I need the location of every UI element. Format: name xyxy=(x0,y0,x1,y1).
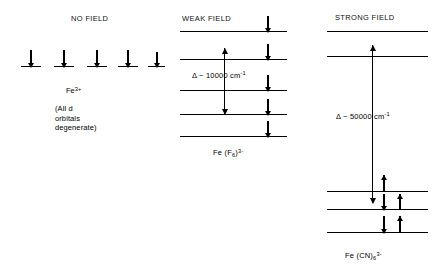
weak-field-delta-label: Δ ~ 10000 cm-1 xyxy=(192,70,246,80)
weak-field-species-charge: 3- xyxy=(238,148,243,154)
strong-field-electron-t2g1-up xyxy=(399,194,401,210)
weak-field-electron-1 xyxy=(267,44,269,60)
strong-field-t2g-level-2 xyxy=(327,232,428,233)
no-field-electron-0 xyxy=(30,50,32,67)
no-field-ion-label: Fe3+ xyxy=(66,86,81,95)
strong-field-species-prefix: Fe (CN) xyxy=(345,251,373,260)
weak-field-level-2 xyxy=(180,90,287,91)
no-field-ion-base: Fe xyxy=(66,86,75,95)
weak-field-delta-exponent: -1 xyxy=(240,70,245,76)
no-field-electron-1 xyxy=(63,50,65,67)
weak-field-level-0 xyxy=(180,31,287,32)
strong-field-species-label: Fe (CN)63- xyxy=(345,251,382,261)
strong-field-title: STRONG FIELD xyxy=(335,13,395,22)
no-field-note: (All d orbitals degenerate) xyxy=(55,104,97,133)
strong-field-electron-t2g0-up xyxy=(383,175,385,192)
no-field-title: NO FIELD xyxy=(71,14,108,23)
no-field-electron-3 xyxy=(127,50,129,67)
strong-field-electron-t2g2-down xyxy=(383,216,385,233)
no-field-electron-4 xyxy=(156,52,158,67)
weak-field-title: WEAK FIELD xyxy=(182,14,231,23)
strong-field-delta-arrow xyxy=(372,45,373,203)
weak-field-electron-2 xyxy=(267,75,269,91)
strong-field-t2g-level-0 xyxy=(327,191,428,192)
weak-field-level-4 xyxy=(180,136,287,137)
strong-field-eg-level-0 xyxy=(327,31,428,32)
weak-field-electron-4 xyxy=(267,121,269,137)
weak-field-electron-0 xyxy=(267,16,269,32)
strong-field-electron-t2g1-down xyxy=(383,194,385,210)
weak-field-level-1 xyxy=(180,59,287,60)
strong-field-t2g-level-1 xyxy=(327,209,428,210)
strong-field-delta-label: Δ ~ 50000 cm-1 xyxy=(336,111,390,121)
no-field-electron-2 xyxy=(96,50,98,67)
strong-field-species-charge: 3- xyxy=(376,251,381,257)
strong-field-delta-text: Δ ~ 50000 cm xyxy=(336,112,384,121)
weak-field-delta-text: Δ ~ 10000 cm xyxy=(192,71,240,80)
strong-field-eg-level-1 xyxy=(327,56,428,57)
weak-field-electron-3 xyxy=(267,99,269,115)
no-field-ion-charge: 3+ xyxy=(75,86,81,92)
weak-field-delta-arrow xyxy=(224,48,225,114)
weak-field-level-3 xyxy=(180,114,287,115)
weak-field-species-label: Fe (F6)3- xyxy=(213,148,243,158)
strong-field-electron-t2g2-up xyxy=(399,216,401,233)
strong-field-delta-exponent: -1 xyxy=(384,111,389,117)
weak-field-species-prefix: Fe (F xyxy=(213,148,232,157)
